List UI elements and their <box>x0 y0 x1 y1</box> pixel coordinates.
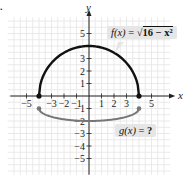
y-tick-label: −3 <box>74 128 85 139</box>
f-label-pointer <box>115 42 124 53</box>
f-radicand: 16 − x² <box>143 26 173 38</box>
g-endpoint <box>37 106 42 111</box>
y-tick-label: 2 <box>80 66 85 77</box>
f-function-label: f(x) = √16 − x² <box>107 26 177 39</box>
y-tick-label: 3 <box>80 53 85 64</box>
y-axis-label: y <box>85 1 91 13</box>
x-tick-label: −3 <box>46 98 57 109</box>
y-tick-label: −1 <box>74 103 85 114</box>
x-tick-label: 1 <box>99 98 104 109</box>
g-endpoint <box>137 106 142 111</box>
x-axis-label: x <box>177 89 183 101</box>
g-name: g(x) <box>119 125 136 136</box>
f-equals: = <box>128 27 134 38</box>
f-endpoint <box>136 93 141 98</box>
x-tick-label: −2 <box>59 98 70 109</box>
f-name: f(x) <box>111 27 126 38</box>
x-tick-label: 3 <box>124 98 129 109</box>
g-function-label: g(x) = ? <box>115 124 156 137</box>
y-tick-label: 5 <box>80 28 85 39</box>
sqrt-icon: √ <box>137 27 143 38</box>
y-tick-label: −4 <box>74 141 85 152</box>
x-tick-label: 2 <box>112 98 117 109</box>
g-unknown: ? <box>147 125 152 136</box>
x-tick-label: 5 <box>149 98 154 109</box>
y-tick-label: −5 <box>74 153 85 164</box>
f-endpoint <box>36 93 41 98</box>
g-equals: = <box>139 125 145 136</box>
y-tick-label: 1 <box>80 78 85 89</box>
x-tick-label: −5 <box>21 98 32 109</box>
